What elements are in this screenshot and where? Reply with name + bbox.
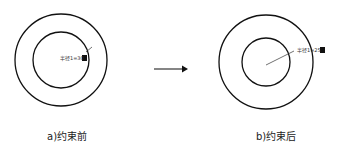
arrow-head-icon (182, 66, 188, 73)
radius-dimension-a: 半径1=30 (60, 55, 84, 61)
caption-b: b)约束后 (256, 128, 296, 143)
caption-a: a)约束前 (47, 128, 87, 143)
inner-circle-b (242, 38, 290, 86)
panel-b-drawing (219, 15, 325, 109)
radius-dimension-b: 半径1=25 (297, 47, 321, 53)
transform-arrow (154, 66, 188, 73)
outer-circle-b (219, 15, 313, 109)
